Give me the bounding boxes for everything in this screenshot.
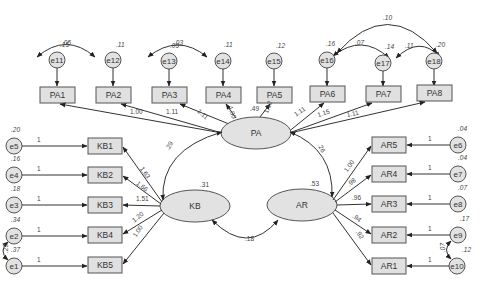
- kb-indicators: KB1 KB2 KB3 KB4 KB5: [88, 138, 122, 273]
- error-e14: e14 .11: [215, 41, 233, 86]
- svg-text:.11: .11: [224, 41, 233, 48]
- svg-text:1: 1: [428, 225, 432, 232]
- indicator-ar1: AR1: [372, 258, 406, 274]
- error-e16: e16 .16: [319, 40, 335, 86]
- sem-path-diagram: .05 .03 .07 .11 .10 e11 .15 e12 .11 e13 …: [0, 0, 484, 292]
- error-e6: e6 .04 1: [407, 125, 467, 153]
- svg-text:e13: e13: [162, 57, 176, 66]
- error-covariances-top: .05 .03 .07 .11 .10: [37, 14, 440, 58]
- svg-text:1.00: 1.00: [130, 108, 143, 115]
- svg-text:.12: .12: [462, 246, 471, 253]
- svg-text:1.00: 1.00: [131, 223, 144, 238]
- svg-text:KB4: KB4: [97, 230, 113, 240]
- ar-error-terms: e6 .04 1 e7 .04 1 e8 .07 1 e9 .17 1 e10 …: [407, 125, 471, 274]
- pa-error-terms: e11 .15 e12 .11 e13 .09 e14 .11 e15 .12: [49, 40, 445, 86]
- svg-text:AR4: AR4: [381, 169, 398, 179]
- svg-text:.49: .49: [250, 105, 259, 112]
- svg-text:PA5: PA5: [267, 90, 283, 100]
- svg-text:.15: .15: [60, 41, 69, 48]
- svg-text:.11: .11: [116, 41, 125, 48]
- svg-text:PA7: PA7: [376, 89, 392, 99]
- cov-e17-e18: .11: [405, 42, 414, 49]
- svg-text:e9: e9: [454, 231, 463, 240]
- cov-e16-e17: .07: [355, 39, 364, 46]
- svg-text:AR5: AR5: [381, 140, 398, 150]
- svg-text:.04: .04: [458, 125, 467, 132]
- svg-text:e1: e1: [10, 262, 19, 271]
- error-e15: e15 .12: [266, 42, 285, 86]
- svg-text:.31: .31: [200, 181, 209, 188]
- svg-text:KB1: KB1: [97, 141, 113, 151]
- error-e9: e9 .17 1: [407, 215, 469, 243]
- svg-text:AR: AR: [296, 200, 308, 210]
- svg-text:AR1: AR1: [381, 261, 398, 271]
- indicator-ar2: AR2: [372, 227, 406, 243]
- svg-text:.34: .34: [11, 216, 20, 223]
- indicator-pa2: PA2: [96, 87, 131, 103]
- svg-text:1.51: 1.51: [136, 195, 149, 202]
- indicator-ar3: AR3: [372, 196, 406, 212]
- svg-text:e14: e14: [216, 57, 230, 66]
- indicator-ar5: AR5: [372, 137, 406, 153]
- indicator-pa6: PA6: [310, 86, 345, 102]
- ar-loadings: 1.00 .98 .96 .94 .92: [333, 146, 371, 265]
- svg-text:e18: e18: [427, 57, 441, 66]
- svg-text:1: 1: [37, 195, 41, 202]
- indicator-pa7: PA7: [366, 86, 401, 102]
- pa-indicators: PA1 PA2 PA3 PA4 PA5 PA6 PA7 PA8: [40, 85, 452, 103]
- svg-text:e7: e7: [454, 170, 463, 179]
- svg-text:.98: .98: [346, 176, 358, 187]
- error-e2: e2 .34 1: [6, 216, 87, 244]
- error-e5: e5 .20 1: [6, 126, 87, 154]
- svg-text:e12: e12: [106, 56, 120, 65]
- svg-text:e17: e17: [376, 59, 390, 68]
- cov-e2-e1: .23: [2, 244, 9, 253]
- error-e12: e12 .11: [105, 41, 125, 86]
- svg-text:1: 1: [428, 164, 432, 171]
- svg-text:KB5: KB5: [97, 260, 113, 270]
- indicator-pa8: PA8: [417, 85, 452, 101]
- indicator-kb5: KB5: [88, 257, 122, 273]
- svg-text:e11: e11: [51, 56, 64, 65]
- svg-text:e2: e2: [10, 232, 19, 241]
- svg-text:.04: .04: [458, 154, 467, 161]
- svg-text:.07: .07: [458, 184, 467, 191]
- error-e18: e18 .20: [426, 41, 445, 86]
- svg-text:1: 1: [37, 256, 41, 263]
- svg-text:e8: e8: [454, 200, 463, 209]
- ar-indicators: AR5 AR4 AR3 AR2 AR1: [372, 137, 406, 274]
- svg-text:1.11: 1.11: [166, 108, 179, 115]
- svg-text:.18: .18: [11, 185, 20, 192]
- svg-text:.12: .12: [276, 42, 285, 49]
- svg-text:PA8: PA8: [427, 88, 443, 98]
- svg-text:e3: e3: [10, 201, 19, 210]
- latent-pa: PA: [221, 117, 291, 149]
- indicator-kb2: KB2: [88, 167, 122, 183]
- indicator-pa5: PA5: [257, 87, 292, 103]
- svg-text:1.15: 1.15: [316, 108, 331, 119]
- svg-text:.14: .14: [385, 43, 394, 50]
- indicator-kb1: KB1: [88, 138, 122, 154]
- error-e8: e8 .07 1: [407, 184, 467, 212]
- indicator-pa3: PA3: [152, 87, 187, 103]
- error-e7: e7 .04 1: [407, 154, 467, 182]
- svg-text:1: 1: [37, 226, 41, 233]
- svg-text:PA: PA: [251, 128, 262, 138]
- kb-error-terms: e5 .20 1 e4 .16 1 e3 .18 1 e2 .34 1 e1 .…: [2, 126, 87, 274]
- indicator-ar4: AR4: [372, 166, 406, 182]
- svg-text:e15: e15: [267, 57, 281, 66]
- svg-text:PA6: PA6: [320, 89, 336, 99]
- indicator-pa1: PA1: [40, 87, 75, 103]
- svg-text:.20: .20: [436, 41, 445, 48]
- indicator-kb3: KB3: [88, 197, 122, 213]
- svg-text:AR2: AR2: [381, 230, 398, 240]
- svg-text:e16: e16: [320, 56, 334, 65]
- svg-text:.96: .96: [352, 194, 361, 201]
- svg-text:.92: .92: [355, 229, 366, 241]
- svg-text:KB3: KB3: [97, 200, 113, 210]
- svg-text:.17: .17: [460, 215, 469, 222]
- error-e1: e1 .37 1: [6, 246, 87, 274]
- svg-text:PA1: PA1: [50, 90, 66, 100]
- latent-kb: KB .31: [160, 181, 230, 222]
- svg-text:1.11: 1.11: [196, 107, 210, 120]
